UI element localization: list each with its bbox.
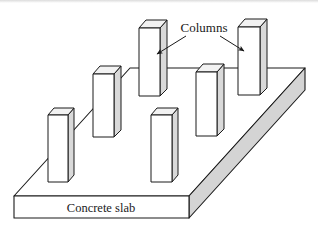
column-5-side-face <box>217 64 224 136</box>
column-1 <box>48 108 74 182</box>
column-4-side-face <box>172 108 178 182</box>
column-4 <box>151 108 178 182</box>
column-1-side-face <box>68 108 74 182</box>
column-3 <box>139 20 167 96</box>
column-2-front-face <box>93 74 114 137</box>
figure-canvas: Columns Concrete slab <box>0 0 318 242</box>
column-5-front-face <box>196 72 217 136</box>
column-3-front-face <box>139 28 160 96</box>
column-2-side-face <box>114 66 121 137</box>
column-3-side-face <box>160 20 167 96</box>
column-6-front-face <box>238 27 260 95</box>
isometric-figure: Columns Concrete slab <box>0 0 318 242</box>
column-6-side-face <box>260 19 267 95</box>
column-4-front-face <box>151 115 172 182</box>
column-6 <box>238 19 267 95</box>
column-2 <box>93 66 121 137</box>
concrete-slab-label: Concrete slab <box>67 201 135 215</box>
column-1-front-face <box>48 115 68 182</box>
column-5 <box>196 64 224 136</box>
columns-label: Columns <box>181 20 228 35</box>
